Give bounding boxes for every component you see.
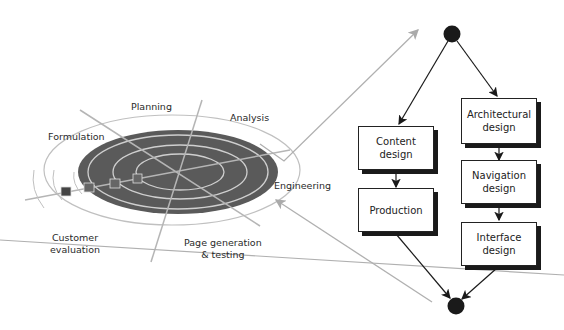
production-box: Production: [358, 188, 434, 232]
end-node: [448, 298, 465, 315]
content-design-box: Content design: [358, 126, 434, 170]
label-planning: Planning: [131, 101, 172, 113]
label-customer-evaluation: Customer evaluation: [50, 232, 100, 256]
arrow-interface-to-end: [462, 268, 497, 299]
label-analysis: Analysis: [230, 112, 269, 124]
arrow-production-to-end: [396, 234, 450, 298]
label-engineering: Engineering: [274, 180, 331, 192]
architectural-design-box: Architectural design: [461, 98, 537, 144]
spiral-ellipse: [78, 130, 278, 214]
start-node: [444, 26, 461, 43]
arrow-start-to-content: [399, 41, 448, 124]
label-page-generation-testing: Page generation & testing: [184, 237, 262, 261]
navigation-design-box: Navigation design: [461, 160, 537, 204]
arrow-start-to-architectural: [457, 41, 497, 96]
label-formulation: Formulation: [48, 131, 105, 143]
interface-design-box: Interface design: [461, 222, 537, 266]
